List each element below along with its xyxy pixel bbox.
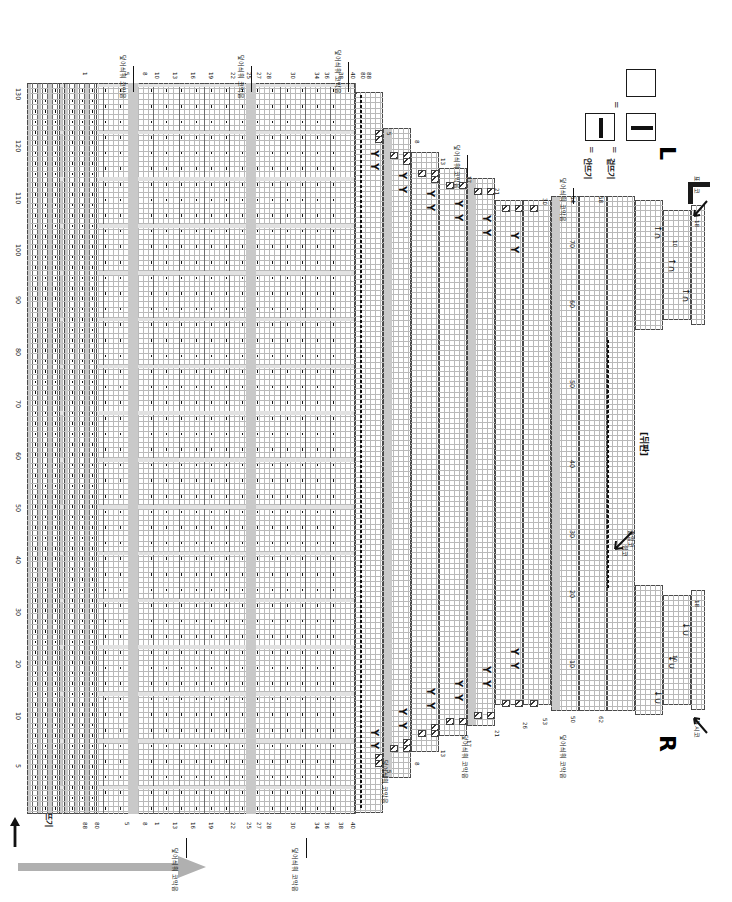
bind-off-symbol: ↑∩ — [682, 288, 690, 302]
decrease-cell — [459, 718, 467, 725]
decrease-cell — [431, 724, 439, 731]
step-count-label: 8 — [414, 762, 420, 766]
leader-line — [133, 66, 134, 92]
row-axis-label: 100 — [14, 244, 22, 256]
cast-off-label-6: 덮어씌워 코막음 — [171, 848, 180, 892]
col-axis-label-top: 28 — [266, 72, 272, 79]
neck-axis-label: 40 — [568, 460, 576, 468]
cast-off-label-5: 덮어씌워 코막음 — [559, 178, 568, 222]
pointer-arrow-icon — [692, 200, 708, 222]
purl-bar-icon — [599, 118, 603, 138]
row-axis-label: 5 — [14, 764, 22, 768]
legend-symbol-purl-box — [585, 113, 615, 141]
col-axis-label-top: 19 — [208, 72, 214, 79]
decrease-symbol: Y — [398, 186, 407, 193]
decrease-cell — [530, 700, 538, 707]
decrease-cell — [390, 152, 398, 159]
decrease-symbol: Y — [510, 246, 519, 253]
neck-axis-label: 50 — [568, 380, 576, 388]
decrease-symbol: Y — [370, 742, 379, 749]
decrease-symbol: Y — [454, 214, 463, 221]
legend-label-purl: 안뜨기 — [583, 158, 594, 179]
row-axis-label: 60 — [14, 452, 22, 460]
leader-line — [251, 66, 252, 92]
decrease-cell — [418, 730, 426, 737]
neck-axis-label: 60 — [568, 300, 576, 308]
decrease-symbol: Y — [398, 172, 407, 179]
step-count-label: 13 — [440, 158, 446, 165]
legend-symbol-knit-box — [626, 113, 656, 141]
decrease-symbol: Y — [370, 150, 379, 157]
row-axis-label: 50 — [14, 504, 22, 512]
step-count-label: 30 — [542, 198, 548, 205]
decrease-cell — [418, 170, 426, 177]
cast-off-label-2: 덮어씌워 코막음 — [237, 55, 246, 99]
decrease-cell — [375, 136, 383, 143]
decrease-symbol: Y — [510, 662, 519, 669]
neck-axis-label: 70 — [568, 240, 576, 248]
bind-off-symbol: ↓∪ — [682, 622, 690, 636]
decrease-symbol: Y — [398, 722, 407, 729]
decrease-cell — [403, 158, 411, 165]
col-axis-label-top: 40 — [350, 72, 356, 79]
noop-step-1 — [355, 92, 357, 94]
rib-stripe — [251, 83, 256, 814]
row-axis-label: 90 — [14, 296, 22, 304]
step-count-label: 5 — [386, 132, 392, 136]
neck-block-6 — [691, 590, 705, 710]
side-label-right: R — [655, 735, 680, 752]
row-axis-label: 80 — [14, 348, 22, 356]
cast-off-label-9: 덮어씌워 코막음 — [461, 735, 470, 779]
col-axis-label-bottom: 28 — [266, 822, 272, 829]
decrease-symbol: Y — [370, 729, 379, 736]
col-axis-label-top: 88 — [366, 72, 372, 79]
row-axis-label: 120 — [14, 140, 22, 152]
decrease-cell — [515, 700, 523, 707]
col-axis-label-top: 13 — [172, 72, 178, 79]
decrease-symbol: Y — [426, 190, 435, 197]
cast-off-label-1: 덮어씌워 코막음 — [119, 55, 128, 99]
step-count-label: 21 — [494, 730, 500, 737]
leader-line — [467, 155, 468, 177]
decrease-symbol: Y — [482, 666, 491, 673]
row-axis-label: 70 — [14, 400, 22, 408]
col-axis-label-bottom: 19 — [208, 822, 214, 829]
col-axis-label-bottom: 36 — [324, 822, 330, 829]
col-axis-label-bottom: 30 — [290, 822, 296, 829]
neck-count-label: 10 — [672, 655, 678, 662]
col-axis-label-bottom: 22 — [230, 822, 236, 829]
neck-count-label: 18 — [694, 600, 700, 607]
step-count-label: 21 — [494, 188, 500, 195]
decrease-symbol: Y — [482, 680, 491, 687]
decrease-symbol: Y — [370, 163, 379, 170]
decrease-symbol: Y — [398, 708, 407, 715]
col-axis-label-bottom: 88 — [82, 822, 88, 829]
row-direction-arrow — [9, 817, 21, 851]
col-axis-label-bottom: 40 — [350, 822, 356, 829]
row-axis-label: 10 — [14, 712, 22, 720]
col-axis-label-top: 16 — [190, 72, 196, 79]
decrease-cell — [530, 205, 538, 212]
step-count-label: 8 — [414, 140, 420, 144]
leader-line — [306, 838, 307, 858]
decrease-symbol: Y — [426, 204, 435, 211]
decrease-cell — [431, 176, 439, 183]
leader-line — [573, 188, 574, 204]
col-axis-label-bottom: 13 — [172, 822, 178, 829]
pointer-arrow-icon — [692, 716, 708, 738]
decrease-cell — [403, 739, 411, 746]
decrease-cell — [502, 700, 510, 707]
legend-equals-2: = — [610, 146, 620, 154]
side-label-left: L — [655, 146, 680, 160]
col-axis-label-top: 30 — [290, 72, 296, 79]
col-axis-label-top: 34 — [314, 72, 320, 79]
bind-off-symbol: ↓∪ — [654, 690, 662, 704]
col-axis-label-bottom: 8 — [142, 822, 148, 826]
col-axis-label-top: 22 — [230, 72, 236, 79]
step-count-label: 17 — [466, 176, 472, 183]
knit-bar-icon — [631, 126, 653, 130]
decrease-symbol: Y — [454, 680, 463, 687]
decrease-symbol: Y — [426, 688, 435, 695]
row-axis-label: 20 — [14, 660, 22, 668]
step-count-label: 58 — [598, 196, 604, 203]
